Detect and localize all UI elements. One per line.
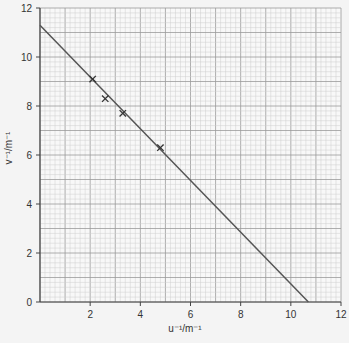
- chart: 02468101224681012 u⁻¹/m⁻¹ v⁻¹/m⁻¹: [0, 0, 349, 343]
- y-axis-label: v⁻¹/m⁻¹: [3, 131, 14, 164]
- y-tick-label: 6: [26, 150, 32, 161]
- x-tick-label: 12: [335, 309, 347, 320]
- x-tick-label: 6: [188, 309, 194, 320]
- y-tick-label: 2: [26, 248, 32, 259]
- x-tick-label: 10: [285, 309, 297, 320]
- x-tick-label: 4: [138, 309, 144, 320]
- x-tick-label: 2: [87, 309, 93, 320]
- x-axis-label: u⁻¹/m⁻¹: [168, 323, 202, 334]
- y-tick-label: 8: [26, 101, 32, 112]
- y-tick-label: 12: [21, 3, 33, 14]
- y-tick-label: 4: [26, 199, 32, 210]
- y-tick-label: 0: [26, 297, 32, 308]
- graph-paper-grid: [40, 8, 341, 302]
- x-tick-label: 8: [238, 309, 244, 320]
- y-tick-label: 10: [21, 52, 33, 63]
